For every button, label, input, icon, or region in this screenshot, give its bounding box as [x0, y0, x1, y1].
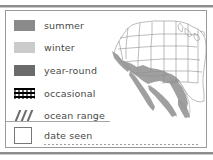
top-divider-shadow [0, 7, 213, 8]
date-seen-write-line[interactable] [44, 144, 200, 145]
legend-item-occasional[interactable]: occasional [14, 85, 95, 101]
legend-label-occasional: occasional [44, 88, 95, 99]
swatch-winter [14, 42, 35, 53]
range-map-svg [110, 11, 208, 121]
legend-item-winter[interactable]: winter [14, 39, 75, 55]
swatch-occasional-dotted-icon [14, 88, 35, 99]
range-map [110, 11, 208, 121]
date-seen-label: date seen [44, 130, 92, 141]
date-seen-row: date seen [6, 122, 208, 149]
swatch-ocean-range-hatch-icon [14, 110, 35, 121]
legend-label-summer: summer [44, 20, 84, 31]
legend-label-winter: winter [44, 42, 75, 53]
bottom-divider-shadow [0, 154, 213, 155]
legend-item-year-round[interactable]: year-round [14, 62, 97, 78]
legend-item-summer[interactable]: summer [14, 17, 84, 33]
date-seen-checkbox[interactable] [14, 127, 32, 144]
legend-card-page: summer winter year-round occasional ocea… [0, 0, 213, 160]
swatch-year-round [14, 65, 35, 76]
legend-label-year-round: year-round [44, 65, 97, 76]
legend-label-ocean-range: ocean range [44, 110, 105, 121]
swatch-summer [14, 20, 35, 31]
legend-card: summer winter year-round occasional ocea… [5, 10, 207, 148]
us-state-outlines [114, 21, 206, 102]
legend: summer winter year-round occasional ocea… [6, 11, 110, 121]
